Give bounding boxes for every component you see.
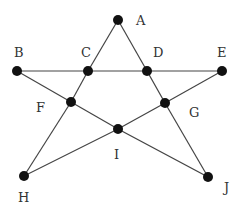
- edge-A-C: [88, 20, 118, 71]
- label-J: J: [224, 181, 229, 194]
- pentagram-diagram: ABCDEFGIHJ: [0, 0, 241, 213]
- label-C: C: [81, 46, 91, 59]
- node-C: [83, 66, 93, 76]
- node-H: [19, 171, 29, 181]
- edge-D-G: [147, 71, 165, 103]
- node-F: [66, 97, 76, 107]
- label-F: F: [36, 101, 45, 114]
- node-E: [217, 66, 227, 76]
- label-I: I: [114, 148, 119, 161]
- edge-B-F: [17, 71, 71, 102]
- edge-E-G: [165, 71, 222, 103]
- node-J: [203, 172, 213, 182]
- edge-C-F: [71, 71, 88, 102]
- edge-G-I: [118, 103, 165, 129]
- label-H: H: [18, 191, 29, 204]
- label-E: E: [217, 46, 227, 59]
- label-A: A: [136, 14, 145, 27]
- node-B: [12, 66, 22, 76]
- node-A: [113, 15, 123, 25]
- label-B: B: [14, 46, 24, 59]
- edge-F-I: [71, 102, 118, 129]
- label-G: G: [189, 106, 199, 119]
- node-G: [160, 98, 170, 108]
- label-D: D: [153, 46, 163, 59]
- node-I: [113, 124, 123, 134]
- node-D: [142, 66, 152, 76]
- edge-I-H: [24, 129, 118, 176]
